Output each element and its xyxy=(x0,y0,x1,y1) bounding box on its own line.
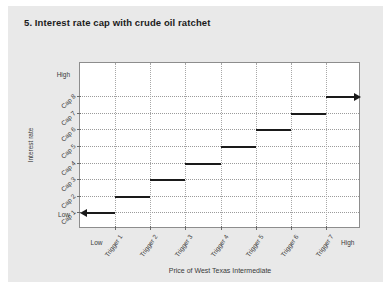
step-segment xyxy=(87,212,115,214)
x-axis-tick xyxy=(185,226,186,230)
y-axis-high-label: High xyxy=(57,70,70,77)
x-axis-tick xyxy=(326,226,327,230)
x-axis-tick xyxy=(221,226,222,230)
x-axis-tick-label: Trigger 7 xyxy=(314,233,335,258)
y-axis-tick xyxy=(77,96,81,97)
step-segment xyxy=(291,113,326,115)
h-gridline xyxy=(80,129,359,130)
y-axis-tick-label: Cap 7 xyxy=(59,109,76,126)
v-gridline xyxy=(221,63,222,227)
y-axis-tick xyxy=(77,163,81,164)
h-gridline xyxy=(80,212,359,213)
x-axis-label: Price of West Texas Intermediate xyxy=(169,267,271,274)
v-gridline xyxy=(326,63,327,227)
chart-title: 5. Interest rate cap with crude oil ratc… xyxy=(24,17,210,28)
y-axis-tick xyxy=(77,146,81,147)
y-axis-tick-label: Cap 8 xyxy=(59,93,76,110)
right-arrow-icon xyxy=(354,93,361,101)
x-axis-tick-label: Trigger 4 xyxy=(209,233,230,258)
y-axis-tick-label: Cap 5 xyxy=(59,143,76,160)
step-segment xyxy=(326,96,356,98)
x-axis-tick xyxy=(115,226,116,230)
step-segment xyxy=(256,129,291,131)
x-axis-tick-label: Trigger 6 xyxy=(279,233,300,258)
y-axis-tick xyxy=(77,179,81,180)
left-arrow-icon xyxy=(80,209,87,217)
x-axis-tick xyxy=(150,226,151,230)
y-axis-tick-label: Cap 6 xyxy=(59,126,76,143)
v-gridline xyxy=(115,63,116,227)
y-axis-tick-label: Cap 4 xyxy=(59,159,76,176)
y-axis-label: Interest rate xyxy=(27,128,34,163)
h-gridline xyxy=(80,96,359,97)
step-segment xyxy=(150,179,185,181)
y-axis-tick xyxy=(77,113,81,114)
y-axis-tick-label: Cap 2 xyxy=(59,192,76,209)
v-gridline xyxy=(291,63,292,227)
x-axis-tick xyxy=(256,226,257,230)
v-gridline xyxy=(185,63,186,227)
x-axis-high-label: High xyxy=(341,239,354,246)
plot-area xyxy=(79,62,360,228)
y-axis-tick xyxy=(77,196,81,197)
plot-inner xyxy=(80,63,359,227)
x-axis-tick-label: Trigger 2 xyxy=(138,233,159,258)
y-axis-tick xyxy=(77,129,81,130)
step-segment xyxy=(221,146,256,148)
step-segment xyxy=(115,196,150,198)
y-axis-low-label: Low xyxy=(58,210,70,217)
x-axis-tick-label: Trigger 1 xyxy=(103,233,124,258)
h-gridline xyxy=(80,146,359,147)
x-axis-tick-label: Trigger 5 xyxy=(244,233,265,258)
x-axis-tick xyxy=(291,226,292,230)
x-axis-tick-label: Trigger 3 xyxy=(174,233,195,258)
figure-panel: 5. Interest rate cap with crude oil ratc… xyxy=(8,6,383,282)
v-gridline xyxy=(150,63,151,227)
y-axis-tick-label: Cap 3 xyxy=(59,176,76,193)
step-segment xyxy=(185,163,220,165)
x-axis-low-label: Low xyxy=(91,239,103,246)
h-gridline xyxy=(80,179,359,180)
v-gridline xyxy=(256,63,257,227)
